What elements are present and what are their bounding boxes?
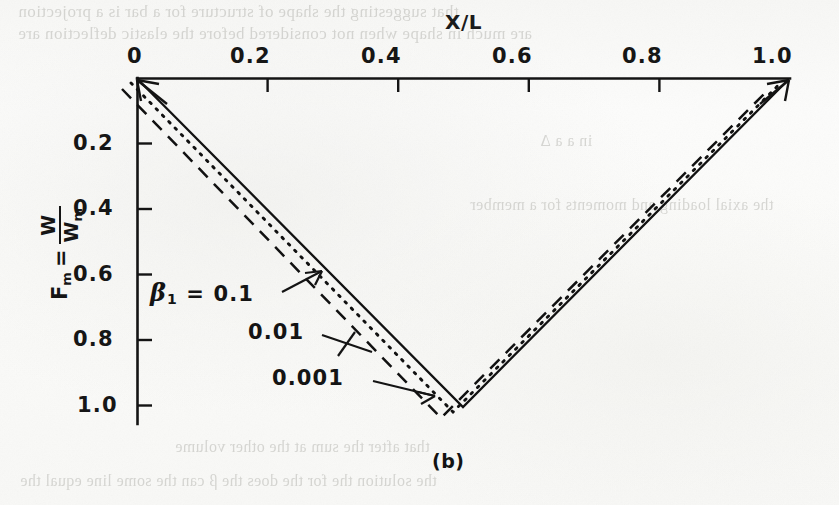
x-tick-label-3: 0.6 bbox=[492, 44, 533, 68]
y-axis-title-symbol: Fm bbox=[48, 272, 74, 300]
x-tick-label-0: 0 bbox=[127, 44, 143, 68]
annotation-value-2: 0.001 bbox=[272, 366, 344, 390]
annotation-value-0: 0.1 bbox=[213, 282, 254, 306]
y-tick-label-1: 0.2 bbox=[73, 131, 114, 155]
figure-plot bbox=[0, 0, 839, 505]
curve-beta-0-001 bbox=[122, 89, 769, 418]
axis-corner-arrow-right bbox=[760, 80, 789, 104]
annotation-equals: = bbox=[186, 282, 205, 306]
annotation-beta-0-001: 0.001 bbox=[272, 366, 344, 390]
axis-corner-arrow-left bbox=[137, 80, 167, 104]
y-tick-label-5: 1.0 bbox=[77, 393, 118, 417]
leader-line-beta-0-1 bbox=[282, 271, 322, 292]
x-axis-title: X/L bbox=[445, 10, 482, 34]
beta-subscript: 1 bbox=[167, 291, 178, 307]
y-axis bbox=[138, 78, 153, 424]
leader-line-beta-0-001 bbox=[373, 381, 435, 404]
y-axis-title-numerator: W bbox=[39, 213, 58, 238]
leader-line-beta-0-01 bbox=[322, 332, 372, 356]
figure-caption: (b) bbox=[432, 450, 464, 472]
y-axis-title-fraction: W Wm bbox=[39, 206, 84, 245]
annotation-beta-0-1: β1 = 0.1 bbox=[150, 278, 254, 307]
annotation-beta-0-01: 0.01 bbox=[248, 320, 304, 344]
beta-symbol: β bbox=[150, 278, 167, 307]
x-tick-label-2: 0.4 bbox=[361, 44, 402, 68]
y-axis-ticks bbox=[138, 144, 153, 406]
y-tick-label-4: 0.8 bbox=[73, 327, 114, 351]
x-axis-ticks bbox=[268, 79, 660, 93]
x-axis bbox=[137, 79, 790, 93]
y-axis-title-symbol-sub: m bbox=[59, 272, 74, 286]
y-axis-title: Fm = W Wm bbox=[38, 206, 83, 300]
x-tick-label-5: 1.0 bbox=[752, 44, 793, 68]
y-axis-title-denominator: Wm bbox=[62, 206, 84, 245]
y-axis-title-equals: = bbox=[49, 249, 73, 267]
x-tick-label-1: 0.2 bbox=[230, 44, 271, 68]
annotation-value-1: 0.01 bbox=[248, 320, 304, 344]
curve-beta-0-1 bbox=[138, 79, 790, 407]
curve-beta-0-01 bbox=[131, 83, 781, 412]
x-tick-label-4: 0.8 bbox=[622, 44, 663, 68]
